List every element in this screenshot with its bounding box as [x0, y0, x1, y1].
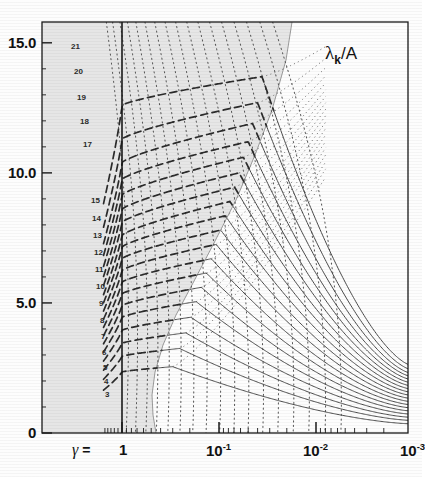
lambda-denominator: /A [341, 44, 357, 63]
curve-label-10: 10 [96, 282, 105, 291]
curve-label-12: 12 [94, 248, 103, 257]
gamma-symbol: γ [72, 441, 78, 458]
curve-label-15: 15 [91, 196, 100, 205]
curve-label-7: 7 [101, 332, 105, 341]
x-tick-exponent: -3 [417, 441, 425, 452]
x-tick-label-3: 10-3 [400, 441, 425, 459]
y-tick-label-5_0: 5.0 [0, 294, 36, 311]
x-tick-exponent: -1 [223, 441, 231, 452]
curve-label-3: 3 [105, 390, 109, 399]
curve-label-5: 5 [103, 363, 107, 372]
x-tick-exponent: -2 [320, 441, 328, 452]
curve-label-18: 18 [80, 117, 89, 126]
curve-label-14: 14 [92, 214, 101, 223]
lambda-subscript-k: k [334, 53, 341, 67]
curve-label-8: 8 [100, 316, 104, 325]
x-tick-label-2: 10-2 [303, 441, 328, 459]
shaded-region [42, 22, 292, 433]
y-tick-label-15_0: 15.0 [0, 34, 36, 51]
x-tick-mantissa: 10 [400, 442, 417, 459]
curve-label-21: 21 [71, 42, 80, 51]
curve-label-6: 6 [102, 348, 106, 357]
curve-label-9: 9 [99, 299, 103, 308]
x-axis-title: γ = [72, 441, 91, 459]
y-tick-label-0: 0 [0, 424, 36, 441]
curve-label-19: 19 [77, 93, 86, 102]
curve-label-17: 17 [83, 140, 92, 149]
equals-sign: = [82, 442, 90, 458]
curve-label-13: 13 [93, 231, 102, 240]
curve-label-20: 20 [74, 67, 83, 76]
x-tick-label-0: 1 [119, 441, 127, 458]
y-tick-label-10_0: 10.0 [0, 164, 36, 181]
lambda-symbol: λ [325, 42, 334, 63]
y-axis-title: λk/A [325, 42, 357, 67]
curve-label-11: 11 [95, 265, 103, 274]
x-tick-label-1: 10-1 [206, 441, 231, 459]
curve-label-4: 4 [104, 377, 108, 386]
x-tick-mantissa: 10 [206, 442, 223, 459]
x-tick-mantissa: 10 [303, 442, 320, 459]
